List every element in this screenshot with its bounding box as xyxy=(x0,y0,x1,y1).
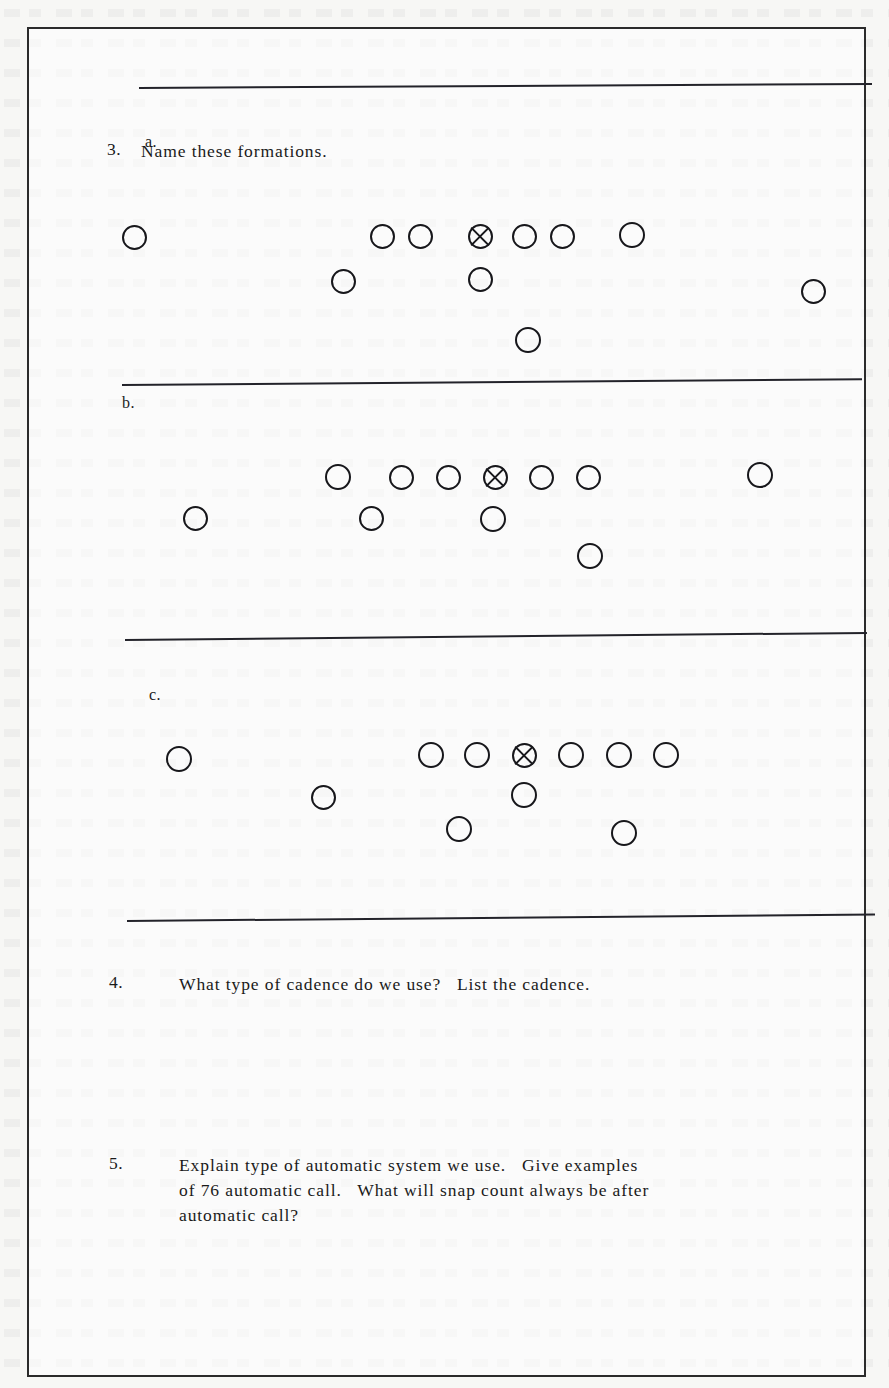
player-marker-center-ball xyxy=(512,743,537,768)
page-border-frame: 3. Name these formations. a.b.c. 4. What… xyxy=(27,27,866,1377)
question-4-text: What type of cadence do we use? List the… xyxy=(179,972,590,997)
question-5-number: 5. xyxy=(109,1153,123,1174)
question-5-text: Explain type of automatic system we use.… xyxy=(179,1153,649,1228)
player-marker-back xyxy=(446,816,472,842)
text-line: Explain type of automatic system we use.… xyxy=(179,1153,649,1178)
formation-c-label: c. xyxy=(149,686,161,704)
question-4-number: 4. xyxy=(109,972,123,993)
player-marker-split-end xyxy=(166,746,192,772)
player-marker-lineman xyxy=(464,742,490,768)
player-marker-back xyxy=(311,785,336,810)
text-line: automatic call? xyxy=(179,1203,649,1228)
text-line: of 76 automatic call. What will snap cou… xyxy=(179,1178,649,1203)
player-marker-lineman xyxy=(558,742,584,768)
player-marker-lineman xyxy=(606,742,632,768)
player-marker-lineman xyxy=(418,742,444,768)
player-marker-tight-end xyxy=(653,742,679,768)
worksheet-page: 3. Name these formations. a.b.c. 4. What… xyxy=(0,0,889,1388)
player-marker-back xyxy=(611,820,637,846)
player-marker-quarterback xyxy=(511,782,537,808)
text-line: What type of cadence do we use? List the… xyxy=(179,972,590,997)
